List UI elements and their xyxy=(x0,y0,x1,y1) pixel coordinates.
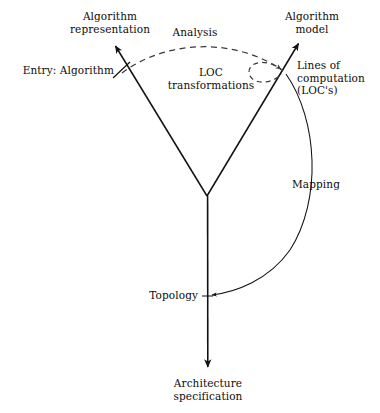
label-algorithm-model: Algorithm model xyxy=(272,10,352,35)
edge-entry-tick xyxy=(113,62,130,78)
label-lines-of-computation: Lines of computation (LOC's) xyxy=(297,59,380,97)
label-mapping: Mapping xyxy=(292,178,372,191)
label-topology: Topology xyxy=(126,289,198,302)
diagram-canvas: Algorithm representation Entry: Algorith… xyxy=(0,0,380,413)
label-loc-transformations: LOC transformations xyxy=(152,66,270,91)
label-analysis: Analysis xyxy=(150,26,240,39)
label-architecture-specification: Architecture specification xyxy=(148,377,268,402)
label-entry-algorithm: Entry: Algorithm xyxy=(0,64,114,77)
label-caption-cut-off xyxy=(60,404,325,413)
